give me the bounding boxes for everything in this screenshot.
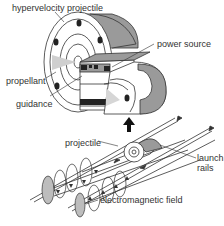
label-propellant: propellant (6, 76, 46, 86)
label-power-source: power source (157, 39, 211, 49)
label-projectile: projectile (65, 138, 101, 148)
label-hypervelocity-projectile: hypervelocity projectile (12, 3, 103, 13)
label-guidance: guidance (16, 99, 53, 109)
label-launch: launch (197, 153, 224, 163)
upward-arrow (123, 117, 135, 132)
hypervelocity-projectile-cutaway (44, 12, 166, 114)
label-rails: rails (197, 163, 214, 173)
label-electromagnetic-field: electromagnetic field (100, 195, 183, 205)
diagram-illustration (0, 0, 224, 226)
railgun-diagram: hypervelocity projectile power source pr… (0, 0, 224, 226)
